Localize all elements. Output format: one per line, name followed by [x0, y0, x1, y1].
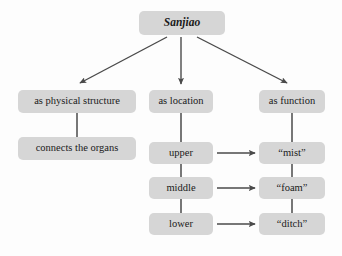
edge-root-to-function [197, 37, 287, 83]
node-foam: “foam” [259, 177, 325, 199]
node-middle: middle [149, 177, 213, 199]
node-as-location: as location [149, 90, 213, 113]
node-upper: upper [149, 142, 213, 164]
node-ditch: “ditch” [259, 213, 325, 235]
node-connects-the-organs: connects the organs [18, 137, 136, 160]
sanjiao-concept-diagram: Sanjiao as physical structure connects t… [0, 0, 342, 256]
node-lower: lower [149, 213, 213, 235]
node-mist: “mist” [259, 142, 325, 164]
node-sanjiao-root: Sanjiao [139, 11, 225, 35]
node-as-function: as function [259, 90, 325, 113]
edge-root-to-physical [80, 37, 167, 83]
node-as-physical-structure: as physical structure [18, 90, 136, 113]
